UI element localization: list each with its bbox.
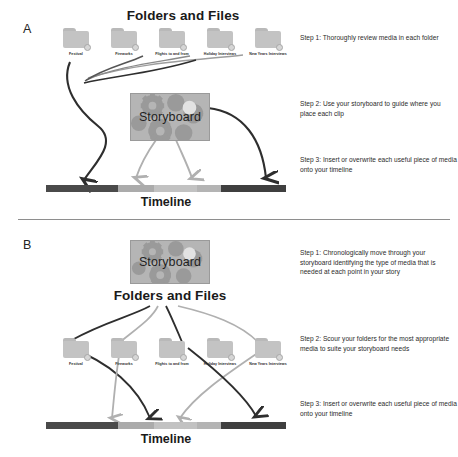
panel-a-letter: A [23, 22, 32, 36]
folder-new-years-interviews[interactable]: New Years Interviews [244, 28, 292, 57]
timeline-segment-clip-light-1 [118, 422, 154, 429]
panel-b: B Storyboard Folders and Files [0, 222, 457, 457]
panel-a-timeline-bar[interactable] [46, 185, 286, 192]
arrow-storyboard-to-folder-fireworks [120, 306, 158, 342]
folder-label: Festival [53, 362, 99, 367]
panel-divider [18, 219, 450, 220]
arrow-storyboard-to-folder-newyears [178, 306, 258, 342]
folder-label: New Years Interviews [245, 52, 291, 57]
arrow-folder2-to-hub [84, 60, 196, 83]
arrow-hub-to-timeline-1 [67, 62, 106, 180]
arrow-storyboard-to-folder-festival [72, 306, 150, 340]
folder-new-years-interviews[interactable]: New Years Interviews [244, 338, 292, 367]
folder-icon [255, 338, 282, 359]
timeline-segment-clip-light-2 [154, 185, 197, 192]
folder-icon [159, 28, 186, 49]
folder-label: Flights to and from [149, 52, 195, 57]
folder-festival[interactable]: Festival [52, 28, 100, 57]
panel-a-storyboard[interactable]: Storyboard [130, 93, 210, 141]
folder-label: Festival [53, 52, 99, 57]
timeline-segment-clip-dark-2 [221, 422, 286, 429]
folder-icon [159, 338, 186, 359]
panel-a-step-2: Step 2: Use your storyboard to guide whe… [300, 99, 458, 118]
panel-b-step-1: Step 1: Chronologically move through you… [300, 248, 458, 277]
timeline-segment-clip-light-2 [154, 422, 197, 429]
folder-icon [63, 28, 90, 49]
panel-b-storyboard[interactable]: Storyboard [130, 240, 210, 284]
panel-b-timeline-label: Timeline [46, 432, 286, 446]
folder-holiday-interviews[interactable]: Holiday Interviews [196, 338, 244, 367]
panel-b-folders-heading: Folders and Files [88, 288, 252, 303]
folder-flights-to-and-from[interactable]: Flights to and from [148, 28, 196, 57]
arrow-storyboard-to-folder-flights [166, 306, 182, 342]
folder-icon [207, 28, 234, 49]
panel-b-folder-row: Festival Fireworks Flights to and from H… [52, 338, 292, 367]
panel-b-timeline-bar[interactable] [46, 422, 286, 429]
panel-a-step-3: Step 3: Insert or overwrite each useful … [300, 155, 458, 174]
timeline-segment-clip-light-3 [197, 185, 221, 192]
folder-label: Holiday Interviews [197, 362, 243, 367]
panel-b-letter: B [23, 238, 32, 252]
panel-a-folder-row: Festival Fireworks Flights to and from H… [52, 28, 292, 57]
arrow-storyboard-to-timeline-right [208, 108, 266, 178]
arrow-storyboard-to-timeline-2 [136, 140, 156, 178]
timeline-segment-clip-light-3 [197, 422, 221, 429]
folder-flights-to-and-from[interactable]: Flights to and from [148, 338, 196, 367]
arrow-folder5-to-hub [88, 55, 243, 78]
timeline-segment-clip-light-1 [118, 185, 154, 192]
folder-icon [255, 28, 282, 49]
arrow-folder3-to-hub [85, 56, 143, 81]
timeline-segment-clip-dark-1 [46, 185, 118, 192]
folder-label: New Years Interviews [245, 362, 291, 367]
panel-b-storyboard-label: Storyboard [131, 255, 209, 269]
folder-festival[interactable]: Festival [52, 338, 100, 367]
folder-label: Fireworks [101, 362, 147, 367]
folder-fireworks[interactable]: Fireworks [100, 28, 148, 57]
folder-icon [63, 338, 90, 359]
folder-icon [111, 28, 138, 49]
timeline-segment-clip-dark-1 [46, 422, 118, 429]
folder-icon [111, 338, 138, 359]
folder-icon [207, 338, 234, 359]
folder-holiday-interviews[interactable]: Holiday Interviews [196, 28, 244, 57]
folder-label: Flights to and from [149, 362, 195, 367]
panel-b-step-3: Step 3: Insert or overwrite each useful … [300, 399, 458, 418]
arrow-folder4-to-hub [86, 56, 190, 80]
panel-a: A Folders and Files Festival Fireworks F… [0, 0, 457, 218]
folder-label: Holiday Interviews [197, 52, 243, 57]
folder-label: Fireworks [101, 52, 147, 57]
panel-a-folders-heading: Folders and Files [88, 8, 278, 23]
timeline-segment-clip-dark-2 [221, 185, 286, 192]
panel-a-step-1: Step 1: Thoroughly review media in each … [300, 33, 458, 43]
panel-a-timeline-label: Timeline [46, 195, 286, 209]
arrow-storyboard-to-timeline-3 [176, 140, 192, 178]
panel-b-step-2: Step 2: Scour your folders for the most … [300, 334, 458, 353]
panel-a-storyboard-label: Storyboard [131, 110, 209, 124]
folder-fireworks[interactable]: Fireworks [100, 338, 148, 367]
